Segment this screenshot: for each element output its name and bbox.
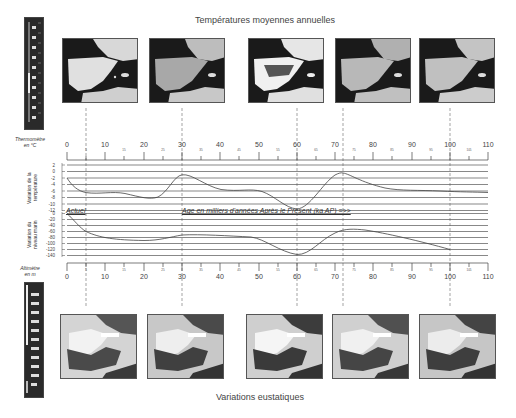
svg-text:65: 65: [314, 268, 318, 272]
svg-text:95: 95: [429, 268, 433, 272]
bottom-x-tick-labels: 01020 304050 607080 90100110: [65, 273, 494, 280]
svg-text:15: 15: [122, 268, 126, 272]
svg-text:85: 85: [390, 268, 394, 272]
top-x-tick-labels: 01020 304050 607080 90100110: [65, 141, 494, 148]
svg-text:5: 5: [85, 148, 87, 152]
temperature-grid: [67, 165, 488, 211]
svg-text:-60: -60: [48, 229, 55, 234]
svg-text:10: 10: [101, 141, 109, 148]
svg-text:90: 90: [408, 141, 416, 148]
svg-text:-120: -120: [46, 247, 56, 252]
svg-text:20: 20: [140, 273, 148, 280]
svg-text:55: 55: [276, 148, 280, 152]
svg-text:100: 100: [444, 273, 456, 280]
svg-text:0: 0: [52, 211, 55, 216]
svg-text:50: 50: [255, 273, 263, 280]
svg-text:5: 5: [85, 268, 87, 272]
svg-text:75: 75: [352, 268, 356, 272]
svg-text:15: 15: [122, 148, 126, 152]
svg-text:65: 65: [314, 148, 318, 152]
svg-text:55: 55: [276, 268, 280, 272]
svg-text:-20: -20: [48, 217, 55, 222]
svg-text:60: 60: [293, 273, 301, 280]
svg-text:45: 45: [237, 148, 241, 152]
svg-text:-80: -80: [48, 235, 55, 240]
svg-text:-140: -140: [46, 253, 56, 258]
top-x-axis: [67, 152, 488, 160]
svg-text:110: 110: [482, 273, 493, 280]
svg-text:-2: -2: [51, 176, 55, 181]
svg-text:70: 70: [331, 141, 339, 148]
svg-text:35: 35: [199, 268, 203, 272]
sea-level-y-axis: [62, 212, 65, 257]
svg-text:95: 95: [429, 148, 433, 152]
sea-level-map-2: [147, 314, 224, 379]
svg-text:105: 105: [466, 268, 471, 272]
sea-level-map-3: [246, 314, 323, 379]
svg-text:110: 110: [482, 141, 493, 148]
svg-text:80: 80: [369, 141, 377, 148]
svg-text:25: 25: [161, 268, 165, 272]
svg-text:30: 30: [178, 141, 186, 148]
svg-text:50: 50: [255, 141, 263, 148]
svg-text:70: 70: [331, 273, 339, 280]
svg-text:-40: -40: [48, 223, 55, 228]
svg-text:2: 2: [52, 163, 55, 168]
svg-text:30: 30: [178, 273, 186, 280]
svg-text:25: 25: [161, 148, 165, 152]
bottom-title: Variations eustatiques: [216, 392, 304, 402]
svg-text:0: 0: [65, 141, 69, 148]
sea-level-y-tick-labels: 0-20-40 -60-80-100 -120-140: [46, 211, 56, 258]
svg-text:-4: -4: [51, 182, 55, 187]
svg-text:90: 90: [408, 273, 416, 280]
svg-text:40: 40: [216, 273, 224, 280]
svg-text:75: 75: [352, 148, 356, 152]
svg-text:40: 40: [216, 141, 224, 148]
svg-text:-8: -8: [51, 195, 55, 200]
actuel-label: Actuel: [66, 207, 85, 214]
temperature-y-tick-labels: 20-2 -4-6-8 -10-12: [48, 163, 55, 214]
age-axis-label: Age en milliers d'années Après le Présen…: [182, 207, 351, 214]
svg-text:105: 105: [466, 148, 471, 152]
svg-text:60: 60: [293, 141, 301, 148]
svg-text:35: 35: [199, 148, 203, 152]
svg-text:-100: -100: [46, 241, 56, 246]
svg-text:0: 0: [65, 273, 69, 280]
svg-text:20: 20: [140, 141, 148, 148]
svg-text:45: 45: [237, 268, 241, 272]
svg-text:10: 10: [101, 273, 109, 280]
svg-text:-10: -10: [48, 202, 55, 207]
sea-level-map-5: [419, 314, 496, 379]
svg-text:-6: -6: [51, 189, 55, 194]
svg-text:80: 80: [369, 273, 377, 280]
sea-level-grid: [67, 214, 488, 256]
sea-level-map-1: [60, 314, 137, 379]
svg-text:85: 85: [390, 148, 394, 152]
svg-text:0: 0: [52, 169, 55, 174]
svg-text:100: 100: [444, 141, 456, 148]
sea-level-map-4: [332, 314, 409, 379]
temperature-y-axis: [62, 163, 65, 211]
